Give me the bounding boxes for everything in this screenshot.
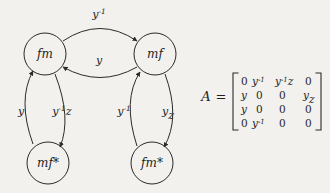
- edge-mfs-to-fm: [25, 71, 33, 144]
- node-fm-star[interactable]: fm*: [131, 142, 173, 184]
- edge-labels: y-1 y y y-1z y-1 yz: [17, 7, 174, 122]
- edge-label-mf-to-fm: y: [95, 54, 103, 67]
- node-fm[interactable]: fm: [24, 33, 66, 75]
- matrix-bracket-left: [233, 73, 238, 130]
- matrix-cell: 0: [256, 103, 263, 115]
- matrix-cell: y-1: [251, 117, 265, 129]
- matrix-cell: 0: [305, 75, 312, 87]
- matrix-cell: y-1: [251, 75, 265, 87]
- node-label-mf-star: mf*: [37, 156, 59, 170]
- matrix-cell: 0: [241, 75, 248, 87]
- node-label-mf: mf: [147, 47, 165, 61]
- graph-and-matrix-figure: fm mf mf* fm* y-1 y y y-1z y-1: [0, 0, 330, 193]
- matrix-bracket-right: [316, 73, 321, 130]
- matrix-cell: 0: [256, 89, 263, 101]
- node-label-fm: fm: [36, 47, 53, 61]
- matrix-name: A: [200, 89, 210, 104]
- matrix-equation: A = 0 y-1 y-1z 0 y 0: [200, 73, 321, 130]
- node-mf[interactable]: mf: [134, 33, 176, 75]
- matrix-cell: 0: [305, 103, 312, 115]
- edge-fms-to-mf: [130, 72, 140, 146]
- matrix-cell: 0: [279, 89, 286, 101]
- matrix-cell: y: [240, 89, 248, 101]
- edge-label-fms-to-mf: y-1: [116, 104, 131, 118]
- node-label-fm-star: fm*: [140, 156, 163, 170]
- edge-fm-to-mf: [63, 29, 137, 42]
- matrix-cell: y: [240, 103, 248, 115]
- matrix-cell: 0: [305, 117, 312, 129]
- matrix-row: y 0 0 0: [240, 103, 312, 115]
- matrix-cell: 0: [279, 103, 286, 115]
- node-mf-star[interactable]: mf*: [27, 142, 69, 184]
- edge-label-fm-to-mfs: y-1z: [51, 104, 72, 118]
- edge-label-fm-to-mf: y-1: [91, 7, 106, 21]
- matrix-row: 0 y-1 y-1z 0: [241, 75, 312, 87]
- matrix-row: y 0 0 yz: [240, 89, 315, 105]
- matrix-cell: y-1z: [274, 75, 294, 87]
- edge-label-mfs-to-fm: y: [17, 105, 25, 118]
- edge-mf-to-fm: [63, 67, 137, 78]
- matrix-equals-sign: =: [216, 89, 227, 104]
- matrix-cell: 0: [279, 117, 286, 129]
- matrix-cell: 0: [241, 117, 248, 129]
- matrix-row: 0 y-1 0 0: [241, 117, 312, 129]
